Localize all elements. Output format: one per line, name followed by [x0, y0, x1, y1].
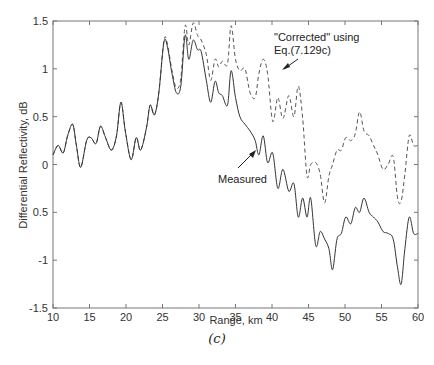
- x-tick-label: 10: [47, 311, 59, 323]
- chart-canvas: 1015202530354045505560 -1.5-10.500.511.5…: [0, 0, 434, 365]
- y-tick-label: -1.5: [29, 302, 48, 314]
- corrected-annotation-line2: Eq.(7.129c): [274, 44, 331, 56]
- y-tick-label: 0: [42, 159, 48, 171]
- x-tick-label: 25: [156, 311, 168, 323]
- x-tick-label: 60: [412, 311, 424, 323]
- figure-caption: (c): [0, 331, 434, 346]
- x-tick-label: 40: [266, 311, 278, 323]
- x-tick-label: 15: [83, 311, 95, 323]
- x-axis-title: Range, km: [209, 314, 262, 326]
- x-tick-label: 50: [339, 311, 351, 323]
- x-tick-label: 20: [120, 311, 132, 323]
- measured-annotation: Measured: [218, 173, 267, 185]
- x-tick-label: 45: [302, 311, 314, 323]
- corrected-annotation-line1: "Corrected" using: [274, 31, 359, 43]
- y-tick-labels: -1.5-10.500.511.5: [29, 15, 48, 314]
- y-tick-label: 0.5: [33, 206, 48, 218]
- y-tick-label: 1.5: [33, 15, 48, 27]
- y-axis-title: Differential Reflectivity, dB: [17, 101, 29, 228]
- x-tick-label: 55: [375, 311, 387, 323]
- y-tick-label: 1: [42, 63, 48, 75]
- y-tick-label: 0.5: [33, 111, 48, 123]
- y-tick-label: -1: [38, 254, 48, 266]
- x-tick-label: 30: [193, 311, 205, 323]
- plot-area: [53, 21, 418, 308]
